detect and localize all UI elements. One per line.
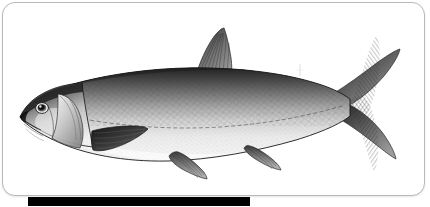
registration-tick-icon xyxy=(296,64,304,76)
eye xyxy=(36,103,49,114)
fish-illustration xyxy=(0,0,430,207)
screenshot-stage xyxy=(0,0,430,207)
caption-bar xyxy=(28,197,250,206)
